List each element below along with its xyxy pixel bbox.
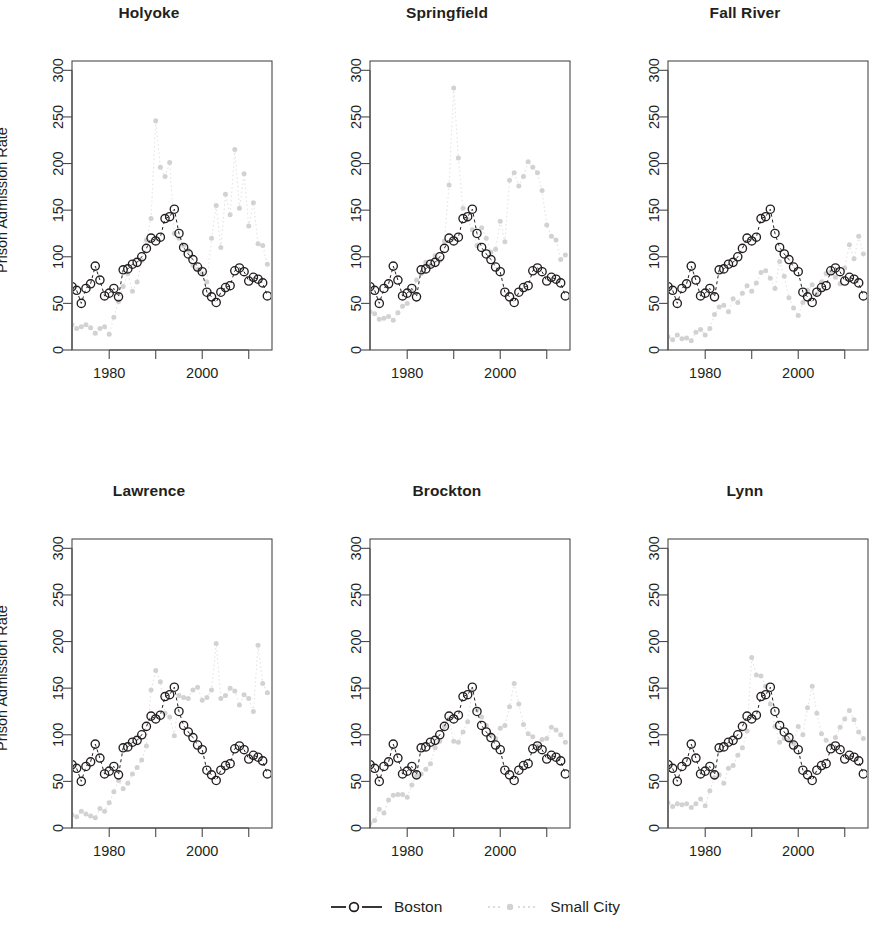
svg-text:0: 0 bbox=[646, 346, 662, 354]
legend-key-boston bbox=[330, 899, 384, 915]
svg-text:200: 200 bbox=[646, 629, 662, 653]
svg-text:100: 100 bbox=[646, 245, 662, 269]
panel-springfield: Springfield05010015020025030019802000 bbox=[298, 0, 596, 445]
svg-text:1980: 1980 bbox=[689, 365, 721, 381]
plot-area: 05010015020025030019802000 bbox=[596, 478, 894, 923]
svg-text:300: 300 bbox=[646, 536, 662, 560]
svg-text:150: 150 bbox=[348, 676, 364, 700]
svg-text:100: 100 bbox=[646, 723, 662, 747]
svg-text:0: 0 bbox=[348, 824, 364, 832]
svg-text:300: 300 bbox=[50, 58, 66, 82]
svg-text:150: 150 bbox=[646, 198, 662, 222]
plot-area: 05010015020025030019802000 bbox=[0, 478, 298, 923]
legend-entry-small-city: Small City bbox=[486, 898, 620, 916]
svg-text:200: 200 bbox=[646, 151, 662, 175]
svg-text:50: 50 bbox=[50, 773, 66, 789]
chart-grid: HolyokePrison Admission Rate050100150200… bbox=[0, 0, 894, 890]
svg-text:0: 0 bbox=[50, 346, 66, 354]
svg-text:1980: 1980 bbox=[93, 843, 125, 859]
panel-fall-river: Fall River05010015020025030019802000 bbox=[596, 0, 894, 445]
svg-text:100: 100 bbox=[348, 723, 364, 747]
svg-text:250: 250 bbox=[646, 583, 662, 607]
svg-text:300: 300 bbox=[50, 536, 66, 560]
svg-text:2000: 2000 bbox=[782, 843, 814, 859]
svg-text:50: 50 bbox=[646, 295, 662, 311]
chart-legend: Boston Small City bbox=[0, 890, 894, 936]
plot-area: 05010015020025030019802000 bbox=[596, 0, 894, 445]
svg-text:150: 150 bbox=[348, 198, 364, 222]
svg-text:1980: 1980 bbox=[93, 365, 125, 381]
svg-text:2000: 2000 bbox=[484, 843, 516, 859]
svg-text:150: 150 bbox=[646, 676, 662, 700]
plot-area: 05010015020025030019802000 bbox=[0, 0, 298, 445]
svg-text:300: 300 bbox=[348, 58, 364, 82]
legend-label-boston: Boston bbox=[394, 898, 442, 916]
svg-text:1980: 1980 bbox=[391, 365, 423, 381]
svg-text:1980: 1980 bbox=[391, 843, 423, 859]
plot-area: 05010015020025030019802000 bbox=[298, 0, 596, 445]
svg-text:300: 300 bbox=[646, 58, 662, 82]
svg-text:200: 200 bbox=[348, 629, 364, 653]
svg-text:200: 200 bbox=[50, 629, 66, 653]
svg-text:50: 50 bbox=[348, 773, 364, 789]
svg-text:2000: 2000 bbox=[186, 843, 218, 859]
svg-text:50: 50 bbox=[348, 295, 364, 311]
svg-text:150: 150 bbox=[50, 676, 66, 700]
legend-label-small-city: Small City bbox=[550, 898, 620, 916]
svg-text:250: 250 bbox=[50, 583, 66, 607]
svg-text:200: 200 bbox=[348, 151, 364, 175]
panel-brockton: Brockton05010015020025030019802000 bbox=[298, 478, 596, 923]
svg-text:300: 300 bbox=[348, 536, 364, 560]
svg-text:150: 150 bbox=[50, 198, 66, 222]
panel-holyoke: HolyokePrison Admission Rate050100150200… bbox=[0, 0, 298, 445]
svg-text:50: 50 bbox=[50, 295, 66, 311]
svg-text:0: 0 bbox=[50, 824, 66, 832]
svg-text:2000: 2000 bbox=[484, 365, 516, 381]
svg-text:250: 250 bbox=[348, 105, 364, 129]
svg-text:2000: 2000 bbox=[186, 365, 218, 381]
svg-text:0: 0 bbox=[348, 346, 364, 354]
svg-text:250: 250 bbox=[50, 105, 66, 129]
svg-text:250: 250 bbox=[348, 583, 364, 607]
panel-lynn: Lynn05010015020025030019802000 bbox=[596, 478, 894, 923]
svg-text:100: 100 bbox=[50, 723, 66, 747]
plot-area: 05010015020025030019802000 bbox=[298, 478, 596, 923]
panel-lawrence: LawrencePrison Admission Rate05010015020… bbox=[0, 478, 298, 923]
svg-text:1980: 1980 bbox=[689, 843, 721, 859]
svg-text:50: 50 bbox=[646, 773, 662, 789]
svg-text:200: 200 bbox=[50, 151, 66, 175]
svg-text:2000: 2000 bbox=[782, 365, 814, 381]
svg-text:100: 100 bbox=[50, 245, 66, 269]
svg-text:100: 100 bbox=[348, 245, 364, 269]
svg-text:0: 0 bbox=[646, 824, 662, 832]
svg-text:250: 250 bbox=[646, 105, 662, 129]
legend-key-small-city bbox=[486, 899, 540, 915]
legend-entry-boston: Boston bbox=[330, 898, 442, 916]
